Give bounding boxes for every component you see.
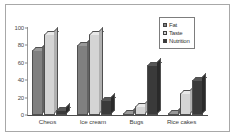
x-axis-label: Cheos (39, 118, 56, 125)
bar-front-face (32, 50, 43, 115)
bar-side-face (66, 103, 70, 114)
bar-fat (168, 113, 179, 115)
legend-label: Fat (169, 22, 177, 28)
bar-chart-figure: 020406080100 CheosIce creamBugsRice cake… (0, 0, 235, 137)
y-tick-label: 40 (18, 77, 24, 83)
bar-side-face (111, 93, 115, 114)
bar-side-face (202, 73, 206, 114)
bar-taste (135, 106, 146, 115)
x-axis-labels: CheosIce creamBugsRice cakes (27, 118, 208, 125)
bar-front-face (192, 80, 203, 115)
bar-front-face (77, 45, 88, 115)
x-axis-label: Rice cakes (167, 118, 196, 125)
bar-front-face (147, 65, 158, 115)
y-tick-label: 20 (18, 95, 24, 101)
bar-nutrition (147, 65, 158, 115)
bar-fat (77, 45, 88, 115)
bar-taste (44, 34, 55, 115)
bar-fat (123, 113, 134, 115)
y-tick-label: 100 (15, 25, 24, 31)
legend-swatch-icon (163, 23, 167, 27)
legend-item-fat: Fat (163, 21, 190, 29)
bar-side-face (157, 58, 161, 114)
legend-item-taste: Taste (163, 29, 190, 37)
bar-nutrition (101, 100, 112, 115)
chart-legend: FatTasteNutrition (159, 17, 195, 49)
y-tick-label: 0 (21, 112, 24, 118)
bar-front-face (168, 113, 179, 115)
bar-taste (180, 93, 191, 115)
bar-front-face (135, 106, 146, 115)
legend-swatch-icon (163, 39, 167, 43)
legend-swatch-icon (163, 31, 167, 35)
bar-front-face (89, 34, 100, 115)
bar-front-face (180, 93, 191, 115)
bar-fat (32, 50, 43, 115)
x-axis-label: Bugs (130, 118, 144, 125)
bar-nutrition (192, 80, 203, 115)
legend-item-nutrition: Nutrition (163, 37, 190, 45)
bar-side-face (54, 27, 58, 114)
legend-label: Nutrition (169, 38, 190, 44)
bar-group (32, 28, 67, 115)
bar-nutrition (56, 110, 67, 115)
bar-taste (89, 34, 100, 115)
bar-group (77, 28, 112, 115)
bar-front-face (44, 34, 55, 115)
bar-front-face (56, 110, 67, 115)
bar-front-face (123, 113, 134, 115)
bar-group (123, 28, 158, 115)
y-tick-label: 80 (18, 42, 24, 48)
y-tick-label: 60 (18, 60, 24, 66)
x-axis-label: Ice cream (80, 118, 106, 125)
legend-label: Taste (169, 30, 182, 36)
bar-front-face (101, 100, 112, 115)
